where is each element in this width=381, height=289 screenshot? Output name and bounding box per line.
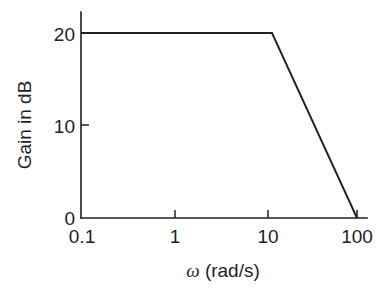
x-tick-label-10: 10 [257, 226, 278, 247]
x-axis-title: ω (rad/s) [186, 260, 260, 281]
y-tick-label-10: 10 [54, 116, 75, 137]
y-tick-label-20: 20 [54, 24, 75, 45]
chart-canvas: 20 10 0 0.1 1 10 100 ω (rad/s) Gain in d… [0, 0, 381, 289]
omega-symbol: ω [186, 260, 199, 281]
x-axis-title-units: (rad/s) [200, 260, 260, 281]
x-tick-label-0.1: 0.1 [69, 226, 95, 247]
bode-gain-plot-figure: 20 10 0 0.1 1 10 100 ω (rad/s) Gain in d… [0, 0, 381, 289]
gain-asymptote-line [81, 33, 357, 218]
y-axis-title: Gain in dB [14, 81, 35, 170]
x-tick-label-1: 1 [170, 226, 181, 247]
x-tick-label-100: 100 [341, 226, 373, 247]
